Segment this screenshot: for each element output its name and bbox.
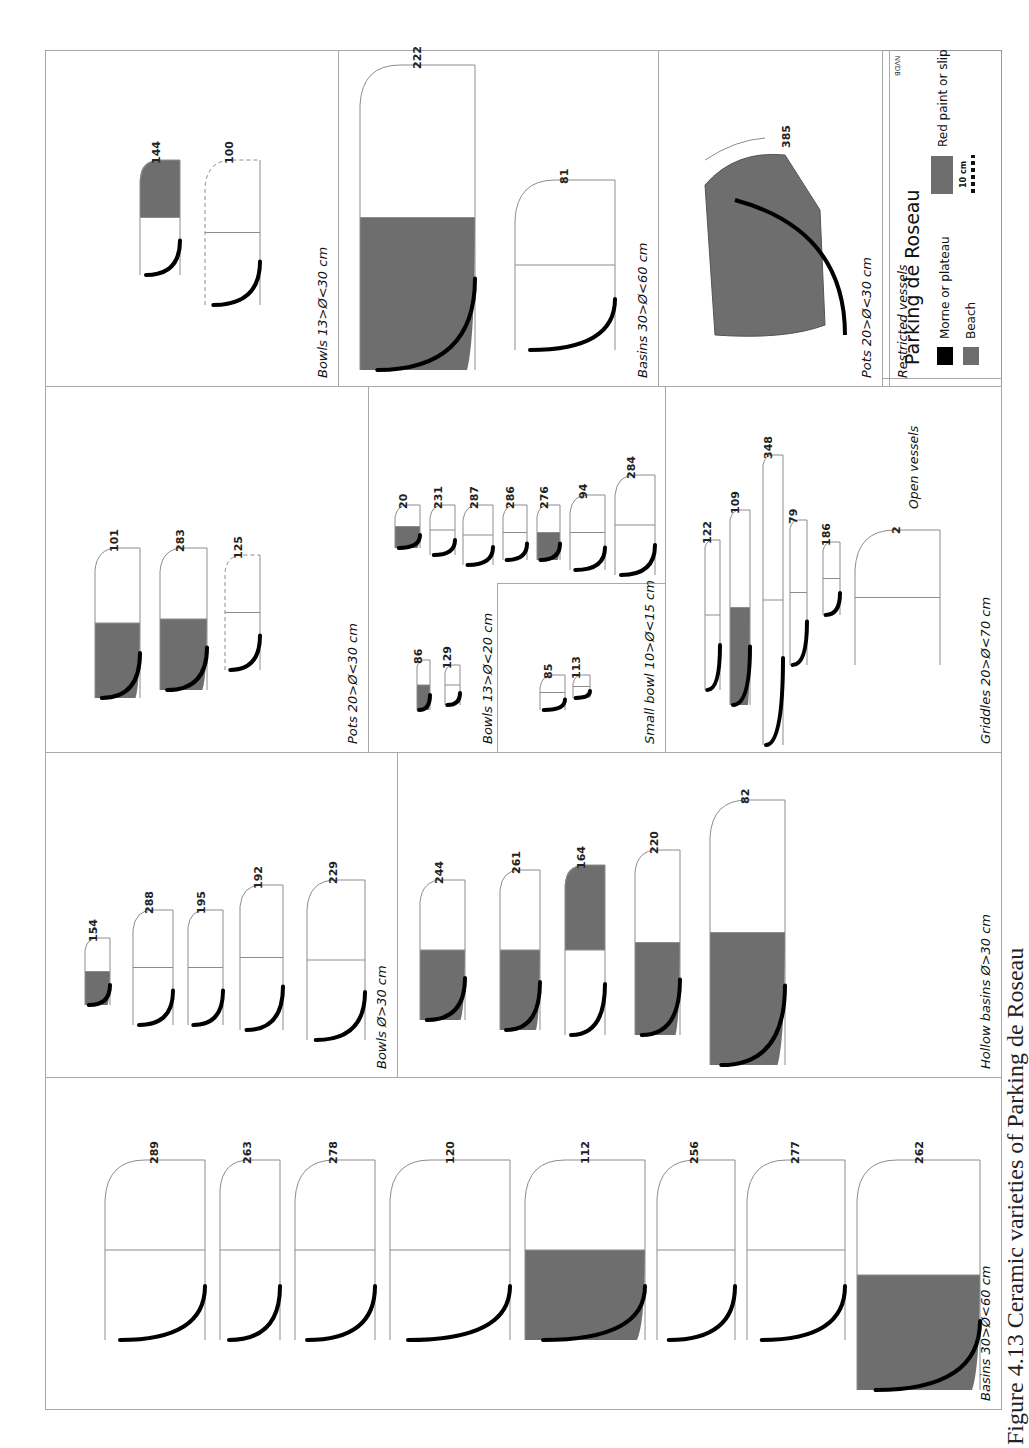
vessel-number: 154 [87,919,100,942]
vessel-p261 [500,870,540,1030]
vessel-p220 [635,850,680,1035]
vessel-p129 [445,665,460,705]
vessel-p20 [395,505,420,548]
vessel-p263 [220,1160,280,1340]
vessel-p283 [160,548,207,690]
vessel-number: 81 [558,169,571,184]
vessel-number: 164 [575,846,588,869]
vessel-number: 195 [195,891,208,914]
vessel-p164 [565,865,605,1035]
vessel-number: 288 [143,891,156,914]
vessel-p2 [855,530,940,665]
vessel-p192 [240,885,283,1030]
vessel-number: 286 [504,486,517,509]
vessel-p229 [307,880,365,1040]
vessel-number: 244 [433,861,446,884]
vessel-number: 287 [468,486,481,509]
vessel-number: 256 [688,1141,701,1164]
vessel-number: 79 [787,509,800,524]
vessel-p288 [133,910,173,1025]
vessel-number: 101 [108,529,121,552]
vessel-number: 385 [780,125,793,148]
vessel-p100 [205,160,260,305]
vessel-number: 263 [241,1141,254,1164]
vessel-p122 [705,540,720,690]
vessel-number: 277 [789,1141,802,1164]
vessel-p79 [790,520,807,665]
vessel-number: 125 [232,536,245,559]
vessel-p186 [823,542,840,615]
vessel-number: 85 [542,664,555,679]
vessel-p256 [657,1160,735,1340]
vessel-p284 [615,475,655,575]
vessel-p262 [857,1160,980,1390]
vessel-number: 112 [579,1141,592,1164]
vessel-p348 [763,455,783,745]
vessel-p120 [390,1160,510,1340]
vessel-number: 276 [538,486,551,509]
vessel-p231 [430,505,455,555]
vessel-number: 120 [444,1141,457,1164]
vessel-number: 192 [252,866,265,889]
vessel-number: 122 [701,521,714,544]
vessel-p286 [503,505,527,560]
vessel-number: 113 [570,656,583,679]
vessel-p86 [417,660,430,710]
vessel-number: 289 [148,1141,161,1164]
vessel-number: 220 [648,831,661,854]
vessel-number: 94 [577,484,590,499]
vessel-p244 [420,880,465,1020]
ceramic-figure: Basins 30>Ø<60 cm Bowls Ø>30 cm Hollow b… [45,50,1002,1410]
vessel-p276 [537,505,560,560]
vessel-number: 231 [432,486,445,509]
vessel-p101 [95,548,140,698]
vessel-number: 86 [412,649,425,664]
vessel-p222 [360,65,475,370]
vessel-number: 186 [820,523,833,546]
vessel-number: 82 [739,789,752,804]
vessel-p287 [463,505,493,565]
vessel-p82 [710,800,785,1065]
vessel-p94 [570,495,605,570]
vessel-number: 348 [762,436,775,459]
vessel-p154 [85,938,110,1005]
vessel-number: 144 [150,141,163,164]
vessel-number: 129 [441,646,454,669]
vessel-number: 100 [223,141,236,164]
vessel-p144 [140,160,180,275]
vessel-p289 [105,1160,205,1340]
vessel-p277 [747,1160,845,1340]
vessel-drawings [45,50,1002,1410]
vessel-p109 [730,510,750,705]
vessel-p125 [225,555,260,670]
vessel-p112 [525,1160,645,1340]
vessel-number: 262 [913,1141,926,1164]
vessel-p195 [188,910,223,1025]
vessel-p278 [295,1160,375,1340]
vessel-number: 261 [510,851,523,874]
vessel-number: 229 [327,861,340,884]
vessel-number: 222 [411,46,424,69]
vessel-number: 20 [397,494,410,509]
figure-caption: Figure 4.13 Ceramic varieties of Parking… [1002,948,1029,1445]
vessel-number: 109 [729,491,742,514]
vessel-385 [705,138,845,336]
vessel-number: 284 [625,456,638,479]
vessel-p85 [540,675,565,710]
vessel-number: 278 [327,1141,340,1164]
vessel-number: 2 [890,526,903,534]
vessel-number: 283 [174,529,187,552]
vessel-p81 [515,180,615,350]
